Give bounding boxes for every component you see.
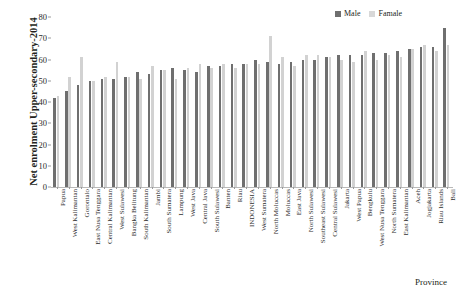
x-axis-tick-mark (140, 187, 141, 189)
bar-male (242, 64, 245, 187)
bar-male (361, 55, 364, 187)
bar-female (317, 55, 320, 187)
bar-group (360, 17, 369, 187)
bar-male (266, 62, 269, 187)
bar-female (139, 79, 142, 187)
x-axis-tick-mark (199, 187, 200, 189)
bar-male (77, 85, 80, 187)
bar-male (231, 64, 234, 187)
bar-male (112, 79, 115, 187)
x-axis-tick-mark (57, 187, 58, 189)
bar-male (302, 60, 305, 188)
x-axis-tick-label: Bangka Belitung (131, 189, 138, 236)
x-axis-tick-mark (353, 187, 354, 189)
bar-male (432, 47, 435, 187)
y-axis-tick-mark (48, 123, 51, 124)
bar-female (187, 68, 190, 187)
bar-female (68, 77, 71, 188)
x-axis-tick-label: Lampung (178, 189, 185, 216)
bar-male (443, 28, 446, 187)
bar-female (222, 64, 225, 187)
bar-group (396, 17, 405, 187)
x-axis-tick-label: East Java (296, 189, 303, 215)
bar-male (313, 60, 316, 188)
bar-group (100, 17, 109, 187)
bar-male (160, 70, 163, 187)
x-axis-tick-mark (388, 187, 389, 189)
bar-female (199, 64, 202, 187)
bar-group (147, 17, 156, 187)
bar-group (372, 17, 381, 187)
x-axis-tick-mark (187, 187, 188, 189)
bar-male (396, 51, 399, 187)
bar-female (128, 77, 131, 188)
y-axis-tick-label: 60 (39, 55, 48, 65)
x-axis-tick-label: Jambi (155, 189, 162, 206)
bar-group (112, 17, 121, 187)
bar-group (254, 17, 263, 187)
plot-area: 01020304050607080 (51, 17, 453, 187)
y-axis-tick-label: 10 (39, 161, 48, 171)
bar-male (207, 66, 210, 187)
x-axis-tick-label: Central Java (202, 189, 209, 224)
legend-swatch-female-icon (369, 11, 375, 17)
bar-group (64, 17, 73, 187)
y-axis-tick-label: 20 (39, 140, 48, 150)
bar-group (135, 17, 144, 187)
bar-male (148, 74, 151, 187)
bar-group (301, 17, 310, 187)
y-axis-tick-mark (48, 144, 51, 145)
bar-female (411, 49, 414, 187)
bar-group (277, 17, 286, 187)
bar-group (206, 17, 215, 187)
bar-female (423, 45, 426, 187)
bar-female (269, 36, 272, 187)
x-axis-tick-label: Southeast Sulawesi (320, 189, 327, 243)
x-axis-tick-mark (175, 187, 176, 189)
bar-male (195, 72, 198, 187)
bar-male (89, 81, 92, 187)
bar-male (171, 68, 174, 187)
y-axis-tick-label: 50 (39, 76, 48, 86)
bar-female (281, 57, 284, 187)
bar-male (384, 53, 387, 187)
bar-male (136, 72, 139, 187)
x-axis-tick-mark (116, 187, 117, 189)
bar-female (92, 81, 95, 187)
bar-male (337, 55, 340, 187)
x-axis-tick-label: West Java (190, 189, 197, 217)
bar-female (340, 60, 343, 188)
legend-swatch-male-icon (335, 11, 341, 17)
x-axis-tick-mark (329, 187, 330, 189)
bar-group (348, 17, 357, 187)
x-axis-tick-label: East Nusa Tenggara (95, 189, 102, 245)
bar-group (384, 17, 393, 187)
bar-group (195, 17, 204, 187)
x-axis-tick-mark (246, 187, 247, 189)
bar-female (80, 57, 83, 187)
y-axis-title: Net enrolment Upper-secondary-2014 (28, 7, 39, 197)
y-axis-tick-mark (48, 38, 51, 39)
x-axis-tick-mark (211, 187, 212, 189)
bar-group (230, 17, 239, 187)
x-axis-tick-label: Bali (450, 189, 457, 201)
bar-group (443, 17, 452, 187)
x-axis-tick-mark (376, 187, 377, 189)
bar-female (57, 96, 60, 187)
x-axis-tick-label: South Kalimantan (143, 189, 150, 240)
bar-group (313, 17, 322, 187)
bar-female (447, 45, 450, 187)
x-axis-tick-label: Gorontalo (84, 189, 91, 217)
bar-male (53, 98, 56, 187)
bar-male (325, 57, 328, 187)
x-axis-tick-label: INDONESIA (249, 189, 256, 227)
bar-group (218, 17, 227, 187)
bar-group (325, 17, 334, 187)
x-axis-tick-label: Central Sulawesi (332, 189, 339, 237)
bar-male (124, 77, 127, 188)
x-axis-tick-mark (341, 187, 342, 189)
bar-female (364, 51, 367, 187)
y-axis-tick-mark (48, 17, 51, 18)
y-axis-tick-label: 70 (39, 33, 48, 43)
y-axis-tick-mark (48, 59, 51, 60)
